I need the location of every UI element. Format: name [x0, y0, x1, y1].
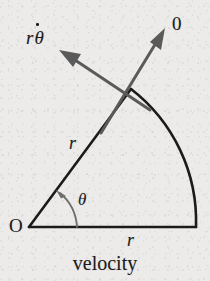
theta-glyph: θ: [34, 27, 43, 48]
angle-arc-indicator: [60, 193, 77, 227]
figure-caption: velocity: [0, 252, 210, 275]
tangential-velocity-vector: [72, 58, 150, 110]
tangential-velocity-arrowhead: [59, 50, 81, 67]
baseline-length-label: r: [127, 231, 134, 249]
radial-vector-label: 0: [172, 14, 182, 33]
radial-length-label: r: [69, 134, 76, 152]
angle-label: θ: [78, 191, 86, 208]
circular-arc: [131, 89, 196, 227]
theta-dot-symbol: θ: [33, 28, 43, 47]
tangential-coefficient: r: [26, 27, 33, 48]
tangential-vector-label: rθ: [26, 28, 44, 47]
velocity-polar-coordinates-figure: rθ 0 r r θ O velocity: [0, 0, 210, 281]
overdot-accent: [36, 23, 39, 26]
origin-label: O: [9, 216, 23, 235]
radial-velocity-vector: [101, 38, 159, 133]
